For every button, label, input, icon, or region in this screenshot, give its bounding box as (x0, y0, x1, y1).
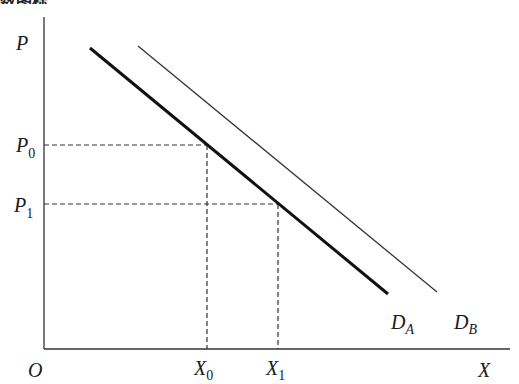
demand-curve-b (138, 46, 437, 292)
demand-diagram: P O X P0 P1 X0 X1 DA DB (0, 0, 519, 384)
origin-label: O (28, 359, 42, 381)
x1-label: X1 (265, 357, 285, 383)
p0-label: P0 (15, 134, 35, 161)
demand-b-label: DB (453, 311, 477, 337)
demand-curve-a (90, 48, 388, 294)
demand-a-label: DA (390, 311, 414, 337)
y-axis-label: P (15, 32, 28, 54)
x0-label: X0 (193, 357, 213, 383)
x-axis-label: X (477, 359, 491, 381)
p1-label: P1 (13, 194, 33, 221)
